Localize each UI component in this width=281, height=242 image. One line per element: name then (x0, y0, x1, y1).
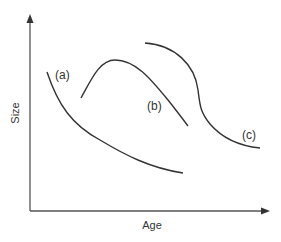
curve-b-label: (b) (147, 99, 162, 113)
y-axis-arrow-icon (27, 14, 34, 23)
curve-a-label: (a) (55, 68, 70, 82)
y-axis-label: Size (9, 102, 21, 123)
size-age-diagram: (a) (b) (c) Age Size (0, 0, 281, 242)
x-axis-arrow-icon (261, 208, 270, 215)
x-axis-label: Age (142, 219, 162, 231)
curve-a (47, 72, 183, 173)
curve-b (81, 60, 188, 126)
curve-c-label: (c) (242, 128, 256, 142)
